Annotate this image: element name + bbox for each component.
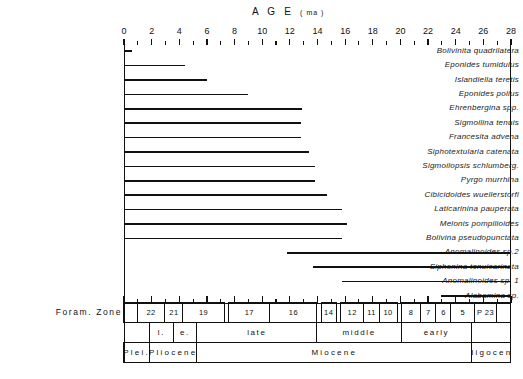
x-tick-label: 18 <box>368 26 378 36</box>
sub-epoch-row: l.e.latemiddleearly <box>124 323 511 343</box>
x-tick-label: 16 <box>340 26 350 36</box>
x-axis: 0246810121416182022242628 <box>124 26 511 44</box>
species-label: Bolivina pseudopunctata <box>401 233 523 242</box>
foram-zone-cell: 16 <box>269 302 317 323</box>
species-label: Cibicidoides wuellerstorfi <box>401 190 523 199</box>
foram-zone-cell: 5 <box>450 302 475 323</box>
range-bar <box>124 223 347 225</box>
epoch-cell: Oligocene <box>471 342 511 363</box>
species-label: Melonis pompilioides <box>401 219 523 228</box>
chart-title-unit: ( ma ) <box>300 9 324 16</box>
range-bar <box>124 50 132 52</box>
species-label: Pyrgo murrhina <box>401 175 523 184</box>
x-tick-label: 20 <box>395 26 405 36</box>
range-bar <box>124 180 315 182</box>
range-bar <box>124 209 342 211</box>
species-label: Ehrenbergina spp. <box>401 103 523 112</box>
x-tick-label: 10 <box>257 26 267 36</box>
species-label: Bolivinita quadrilatera <box>401 46 523 55</box>
range-bar <box>124 166 315 168</box>
range-bar <box>124 108 302 110</box>
range-bar <box>313 266 511 268</box>
x-tick-label: 12 <box>285 26 295 36</box>
range-chart: A G E ( ma ) 0246810121416182022242628 B… <box>0 0 523 379</box>
epoch-cell: Plei. <box>123 342 150 363</box>
species-label: Islandiella teretis <box>401 75 523 84</box>
foram-zone-cell: 22 <box>137 302 166 323</box>
range-bar <box>124 122 301 124</box>
foram-zone-cell: 19 <box>182 302 225 323</box>
foram-zone-cell: 17 <box>228 302 271 323</box>
species-label: Siphotextularia catenata <box>401 147 523 156</box>
foram-zone-cell: 6 <box>435 302 451 323</box>
x-tick-label: 2 <box>149 26 154 36</box>
x-tick-label: 26 <box>478 26 488 36</box>
range-bar <box>124 151 309 153</box>
range-bar <box>124 194 327 196</box>
range-bar <box>124 79 207 81</box>
foram-zone-caption: Foram. Zone <box>30 307 122 317</box>
epoch-cell: Pliocene <box>149 342 197 363</box>
x-tick-label: 22 <box>423 26 433 36</box>
chart-title-text: A G E <box>252 6 294 17</box>
foram-zone-cell: 7 <box>420 302 436 323</box>
foram-zone-cell: 8 <box>401 302 421 323</box>
sub-epoch-cell: l. <box>149 322 174 343</box>
foram-zone-cell: 10 <box>379 302 398 323</box>
stratigraphy-table: 2221191716141211108765P 23 l.e.latemiddl… <box>124 303 511 363</box>
foram-zone-cell: 12 <box>340 302 365 323</box>
range-bar <box>124 65 185 67</box>
sub-epoch-cell: e. <box>173 322 198 343</box>
foram-zone-cell: P 23 <box>474 302 497 323</box>
species-label: Sigmoilopsis schlumberg. <box>401 161 523 170</box>
x-tick-label: 8 <box>232 26 237 36</box>
species-label: Francesita advena <box>401 132 523 141</box>
foram-zone-row: 2221191716141211108765P 23 <box>124 303 511 323</box>
species-label: Sigmoilina tenuis <box>401 118 523 127</box>
x-tick-label: 28 <box>506 26 516 36</box>
range-bar <box>342 281 511 283</box>
x-tick-label: 6 <box>204 26 209 36</box>
x-tick-label: 4 <box>177 26 182 36</box>
sub-epoch-cell: early <box>401 322 473 343</box>
range-bar <box>287 252 511 254</box>
epoch-row: Plei.PlioceneMioceneOligocene <box>124 343 511 363</box>
species-label: Eponides tumidulus <box>401 60 523 69</box>
sub-epoch-cell: late <box>196 322 317 343</box>
foram-zone-cell: 21 <box>164 302 183 323</box>
species-label: Laticarinina pauperata <box>401 204 523 213</box>
range-bar <box>124 238 342 240</box>
x-tick-label: 0 <box>121 26 126 36</box>
chart-title: A G E ( ma ) <box>252 6 324 17</box>
epoch-cell: Miocene <box>196 342 472 363</box>
species-label: Eponides polius <box>401 89 523 98</box>
range-bar <box>124 137 301 139</box>
foram-zone-cell: 14 <box>321 302 337 323</box>
sub-epoch-cell: middle <box>316 322 401 343</box>
foram-zone-cell <box>496 302 511 323</box>
x-tick-label: 14 <box>312 26 322 36</box>
x-tick-label: 24 <box>451 26 461 36</box>
range-bar <box>124 94 248 96</box>
foram-zone-cell <box>123 302 138 323</box>
foram-zone-cell: 11 <box>363 302 379 323</box>
